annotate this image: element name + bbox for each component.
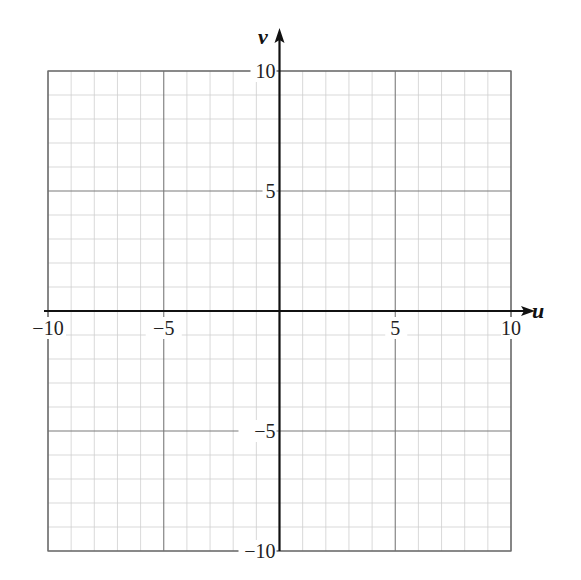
y-axis-label: v	[258, 24, 268, 49]
coordinate-plane: −10−5510105−5−10 u v	[0, 0, 581, 580]
y-tick-label: −10	[244, 540, 275, 562]
x-tick-label: −5	[153, 317, 174, 339]
x-axis-label: u	[532, 298, 544, 323]
x-tick-label: −10	[32, 317, 63, 339]
x-tick-label: 10	[501, 317, 521, 339]
y-tick-label: 10	[256, 60, 276, 82]
y-tick-label: 5	[266, 180, 276, 202]
x-tick-label: 5	[390, 317, 400, 339]
y-tick-label: −5	[254, 420, 275, 442]
